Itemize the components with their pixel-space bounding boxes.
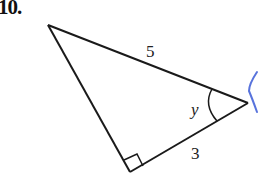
side-hypotenuse <box>48 25 248 103</box>
hypotenuse-label: 5 <box>146 42 155 61</box>
angle-arc <box>208 89 217 121</box>
pen-mark <box>249 72 257 112</box>
side-adjacent <box>130 103 248 172</box>
triangle-diagram: 5 y 3 <box>0 0 263 179</box>
right-angle-marker <box>124 154 143 166</box>
side-opposite <box>48 25 130 172</box>
angle-label: y <box>189 100 199 119</box>
adjacent-label: 3 <box>191 144 200 163</box>
